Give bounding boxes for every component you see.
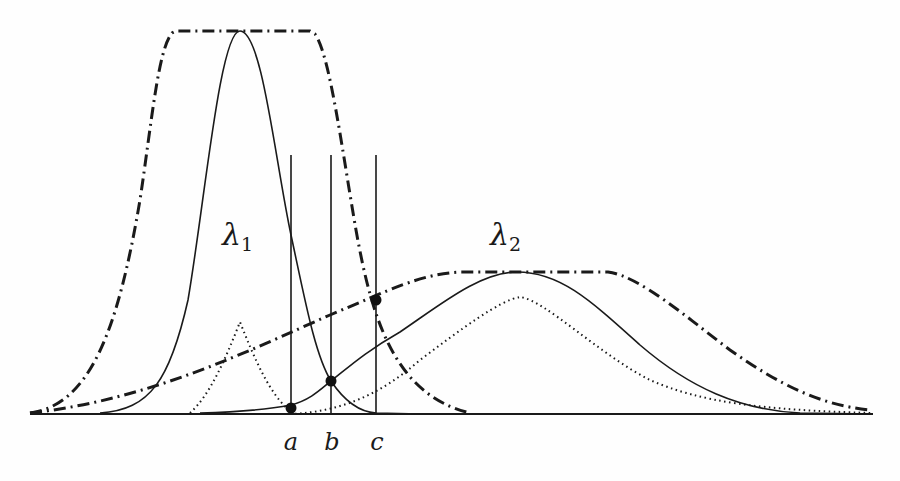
lambda2-envelope-curve [30, 272, 870, 413]
lambda1-label: λ1 [221, 217, 253, 255]
lambda2-density-curve [200, 272, 873, 414]
threshold-label-b: b [324, 428, 339, 456]
distribution-diagram: λ1 λ2 a b c [0, 0, 900, 481]
marker-b [326, 376, 337, 387]
threshold-label-a: a [284, 428, 298, 456]
diagram-canvas: λ1 λ2 a b c [0, 0, 900, 481]
marker-a [286, 403, 297, 414]
lambda1-density-curve [100, 31, 420, 414]
threshold-label-c: c [370, 428, 383, 456]
lambda1-dotted-curve [190, 322, 291, 413]
marker-c [371, 295, 382, 306]
lambda1-envelope-curve [30, 31, 470, 413]
lambda2-label: λ2 [489, 217, 521, 255]
